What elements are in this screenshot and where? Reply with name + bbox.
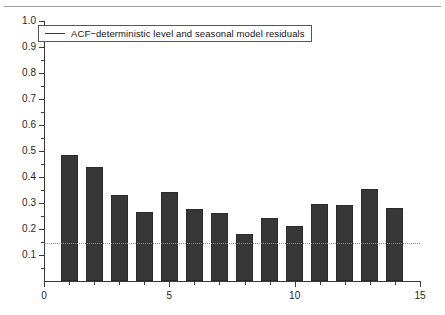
y-tick-0.7 [39, 99, 44, 100]
y-tick-minor [41, 86, 44, 87]
x-tick-5 [169, 282, 170, 287]
significance-threshold-line [44, 243, 420, 244]
legend-line-swatch-icon [45, 33, 65, 34]
x-tick-minor [370, 282, 371, 285]
x-tick-minor [69, 282, 70, 285]
y-tick-0.6 [39, 125, 44, 126]
y-tick-label-0.5: 0.5 [6, 146, 36, 156]
y-tick-minor [41, 112, 44, 113]
y-tick-0.5 [39, 151, 44, 152]
y-tick-minor [41, 138, 44, 139]
bar-lag-13 [361, 189, 378, 281]
x-tick-minor [119, 282, 120, 285]
x-tick-minor [270, 282, 271, 285]
y-tick-1.0 [39, 21, 44, 22]
y-tick-0.3 [39, 203, 44, 204]
acf-bar-chart-figure: 0.10.20.30.40.50.60.70.80.91.0 051015 AC… [0, 0, 445, 315]
bar-lag-5 [161, 192, 178, 281]
x-tick-minor [395, 282, 396, 285]
y-tick-minor [41, 268, 44, 269]
x-tick-minor [219, 282, 220, 285]
chart-legend: ACF−deterministic level and seasonal mod… [38, 25, 312, 42]
y-tick-minor [41, 190, 44, 191]
y-tick-label-1.0: 1.0 [6, 16, 36, 26]
x-tick-15 [420, 282, 421, 287]
x-tick-minor [94, 282, 95, 285]
y-tick-minor [41, 60, 44, 61]
x-tick-0 [44, 282, 45, 287]
bar-lag-1 [61, 155, 78, 281]
bar-lag-14 [386, 208, 403, 281]
y-tick-0.1 [39, 255, 44, 256]
y-tick-label-0.1: 0.1 [6, 250, 36, 260]
y-tick-label-0.2: 0.2 [6, 224, 36, 234]
bar-lag-3 [111, 195, 128, 281]
x-tick-minor [320, 282, 321, 285]
y-tick-label-0.8: 0.8 [6, 68, 36, 78]
x-tick-minor [194, 282, 195, 285]
bar-lag-8 [236, 234, 253, 281]
x-tick-10 [295, 282, 296, 287]
x-tick-minor [345, 282, 346, 285]
y-tick-0.9 [39, 47, 44, 48]
y-tick-label-0.6: 0.6 [6, 120, 36, 130]
x-tick-label-5: 5 [159, 290, 179, 301]
bar-lag-6 [186, 209, 203, 281]
bar-lag-10 [286, 226, 303, 281]
x-tick-minor [144, 282, 145, 285]
y-tick-label-0.3: 0.3 [6, 198, 36, 208]
y-tick-0.8 [39, 73, 44, 74]
bar-lag-2 [86, 167, 103, 281]
top-horizontal-rule [4, 6, 441, 7]
x-tick-label-15: 15 [410, 290, 430, 301]
y-tick-label-0.7: 0.7 [6, 94, 36, 104]
x-tick-minor [245, 282, 246, 285]
y-tick-label-0.4: 0.4 [6, 172, 36, 182]
y-tick-minor [41, 164, 44, 165]
bar-lag-7 [211, 213, 228, 281]
y-tick-0.4 [39, 177, 44, 178]
y-tick-label-0.9: 0.9 [6, 42, 36, 52]
bar-lag-4 [136, 212, 153, 281]
y-tick-0.2 [39, 229, 44, 230]
x-tick-label-10: 10 [285, 290, 305, 301]
legend-entry-label: ACF−deterministic level and seasonal mod… [71, 28, 305, 39]
x-tick-label-0: 0 [34, 290, 54, 301]
y-tick-minor [41, 216, 44, 217]
x-axis-line [44, 281, 421, 282]
bar-lag-9 [261, 218, 278, 281]
